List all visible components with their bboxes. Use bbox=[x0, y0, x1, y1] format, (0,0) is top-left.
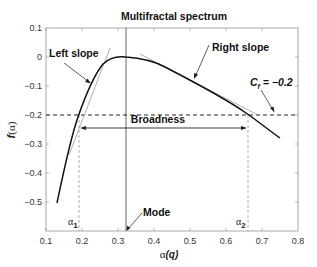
x-tick-label: 0.3 bbox=[112, 236, 125, 246]
spectrum-curve bbox=[57, 57, 280, 203]
right-slope-pointer bbox=[194, 45, 209, 79]
x-tick-label: 0.1 bbox=[40, 236, 53, 246]
x-axis-label: α(q) bbox=[160, 248, 179, 260]
chart-title: Multifractal spectrum bbox=[121, 10, 227, 22]
y-tick-label: 0 bbox=[37, 52, 42, 62]
x-tick-label: 0.6 bbox=[220, 236, 233, 246]
x-tick-label: 0.7 bbox=[256, 236, 269, 246]
alpha1-label: α1 bbox=[68, 216, 78, 230]
left-slope-label: Left slope bbox=[49, 47, 99, 59]
x-tick-label: 0.8 bbox=[292, 236, 305, 246]
cutoff-pointer bbox=[261, 90, 275, 113]
left-slope-pointer bbox=[64, 63, 91, 84]
y-tick-label: −0.3 bbox=[24, 139, 42, 149]
y-tick-label: −0.1 bbox=[24, 81, 42, 91]
y-tick-label: 0.1 bbox=[29, 23, 42, 33]
x-tick-label: 0.4 bbox=[148, 236, 161, 246]
y-tick-label: −0.4 bbox=[24, 168, 42, 178]
mode-pointer bbox=[127, 213, 143, 231]
y-axis-label: f(α) bbox=[5, 121, 18, 138]
right-slope-label: Right slope bbox=[212, 41, 269, 53]
x-tick-labels: 0.1 0.2 0.3 0.4 0.5 0.6 0.7 0.8 bbox=[40, 236, 305, 246]
x-tick-label: 0.2 bbox=[76, 236, 89, 246]
y-tick-label: −0.5 bbox=[24, 197, 42, 207]
cutoff-label: Cf = −0.2 bbox=[250, 76, 293, 90]
x-tick-label: 0.5 bbox=[184, 236, 197, 246]
broadness-arrow bbox=[80, 126, 247, 130]
y-tick-labels: 0.1 0 −0.1 −0.2 −0.3 −0.4 −0.5 bbox=[24, 23, 42, 207]
mode-label: Mode bbox=[143, 206, 171, 218]
y-tick-label: −0.2 bbox=[24, 110, 42, 120]
multifractal-spectrum-chart: Multifractal spectrum 0.1 0.2 0.3 0.4 0.… bbox=[0, 0, 317, 267]
alpha2-label: α2 bbox=[236, 216, 246, 230]
broadness-label: Broadness bbox=[131, 113, 185, 125]
